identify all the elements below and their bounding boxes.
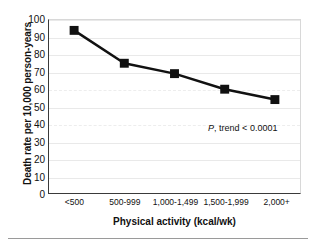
series-markers — [70, 26, 280, 104]
x-tick-label-4: 2,000+ — [264, 197, 290, 207]
data-point-1 — [120, 59, 129, 68]
data-series-line — [49, 20, 300, 193]
y-tick-label-50: 50 — [5, 103, 45, 113]
y-tick-label-70: 70 — [5, 68, 45, 78]
y-tick-label-60: 60 — [5, 85, 45, 95]
x-tick-label-2: 1,000-1,499 — [153, 197, 198, 207]
annotation-text: , trend < 0.0001 — [214, 123, 277, 133]
y-tick-label-40: 40 — [5, 120, 45, 130]
data-point-0 — [70, 26, 79, 35]
data-point-2 — [170, 69, 179, 78]
x-tick-label-0: <500 — [65, 197, 84, 207]
y-tick-label-0: 0 — [5, 190, 45, 200]
data-point-4 — [270, 95, 279, 104]
y-tick-label-90: 90 — [5, 33, 45, 43]
series-polyline — [74, 30, 275, 99]
chart-figure: Death rate per 10,000 person-years 01020… — [0, 0, 317, 246]
x-tick-label-1: 500-999 — [109, 197, 140, 207]
y-tick-label-80: 80 — [5, 50, 45, 60]
footer-divider — [8, 238, 308, 239]
y-tick-label-100: 100 — [5, 15, 45, 25]
y-tick-label-20: 20 — [5, 155, 45, 165]
annotation-p-trend: P, trend < 0.0001 — [208, 123, 277, 133]
plot-area: 0102030405060708090100 <500500-9991,000-… — [48, 19, 301, 194]
x-tick-label-3: 1,500-1,999 — [203, 197, 248, 207]
y-tick-label-30: 30 — [5, 138, 45, 148]
y-tick-label-10: 10 — [5, 173, 45, 183]
x-axis-title: Physical activity (kcal/wk) — [48, 216, 301, 227]
data-point-3 — [220, 85, 229, 94]
